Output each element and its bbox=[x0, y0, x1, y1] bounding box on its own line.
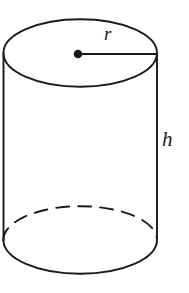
cylinder-drawing bbox=[0, 0, 189, 293]
cylinder-figure: r h bbox=[0, 0, 189, 293]
height-label: h bbox=[162, 129, 173, 150]
center-point-dot bbox=[74, 50, 83, 59]
cylinder-bottom-front-arc bbox=[3, 240, 157, 274]
cylinder-bottom-hidden-arc bbox=[3, 206, 157, 240]
radius-label: r bbox=[104, 24, 111, 43]
